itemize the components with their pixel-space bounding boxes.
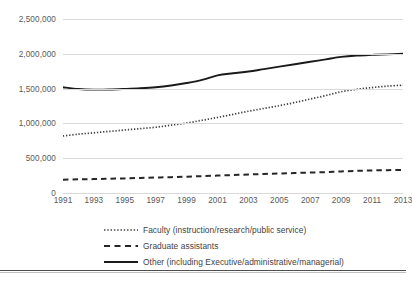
y-axis-tick-label: 0 [0, 189, 56, 198]
gridline [63, 89, 403, 90]
y-axis-tick-label: 500,000 [0, 154, 56, 163]
dotted-line-marker [104, 225, 138, 235]
gridline [63, 54, 403, 55]
footer-rule [0, 270, 406, 271]
legend-item-graduate-assistants: Graduate assistants [104, 238, 394, 253]
legend-label-graduate-assistants: Graduate assistants [143, 241, 218, 251]
x-axis-tick-label: 1999 [177, 196, 196, 205]
x-axis-tick-label: 1991 [54, 196, 73, 205]
y-axis-tick-label: 2,500,000 [0, 15, 56, 24]
series-layer [63, 19, 403, 193]
legend-item-other: Other (including Executive/administrativ… [104, 254, 394, 269]
x-axis-tick-label: 2013 [394, 196, 412, 205]
x-axis-tick-label: 2003 [239, 196, 258, 205]
y-axis-tick-label: 1,500,000 [0, 84, 56, 93]
series-line [63, 170, 403, 180]
x-axis-tick-label: 2001 [208, 196, 227, 205]
legend-item-faculty: Faculty (instruction/research/public ser… [104, 222, 394, 237]
y-axis-tick-label: 1,000,000 [0, 119, 56, 128]
footer-rule-secondary [0, 272, 406, 273]
solid-line-marker [104, 257, 138, 267]
gridline [63, 19, 403, 20]
y-axis-tick-label: 2,000,000 [0, 49, 56, 58]
gridline [63, 193, 403, 194]
x-axis-tick-label: 2009 [332, 196, 351, 205]
dashed-line-marker [104, 241, 138, 251]
series-line [63, 54, 403, 90]
x-axis-tick-label: 2011 [363, 196, 381, 205]
x-axis-tick-label: 1997 [146, 196, 165, 205]
x-axis-tick-label: 1995 [116, 196, 135, 205]
legend-label-faculty: Faculty (instruction/research/public ser… [143, 225, 306, 235]
x-axis-tick-label: 1993 [85, 196, 104, 205]
x-axis-tick-label: 2005 [270, 196, 289, 205]
series-line [63, 85, 403, 136]
gridline [63, 123, 403, 124]
chart-legend: Faculty (instruction/research/public ser… [104, 222, 394, 270]
gridline [63, 158, 403, 159]
x-axis-tick-label: 2007 [301, 196, 320, 205]
legend-label-other: Other (including Executive/administrativ… [143, 257, 344, 267]
plot-area: 0500,0001,000,0001,500,0002,000,0002,500… [63, 19, 403, 193]
x-axis: 1991199319951997199920012003200520072009… [63, 196, 403, 210]
